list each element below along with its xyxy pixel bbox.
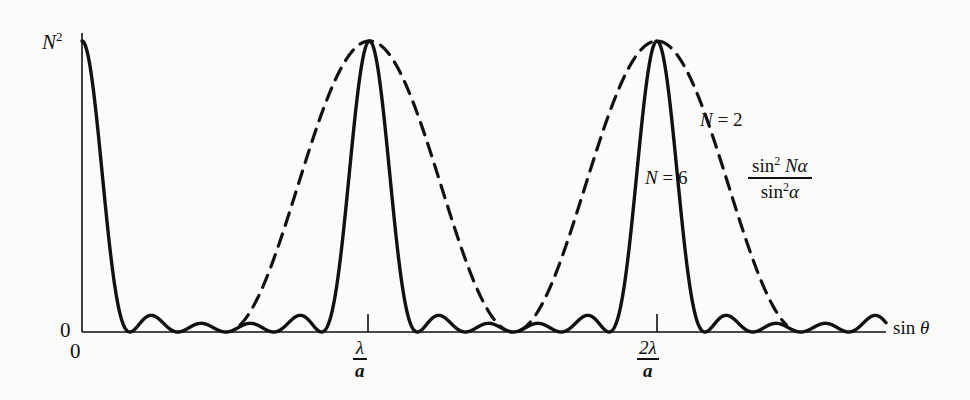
x-tick-label-2lambda-over-a: 2λ a (636, 338, 660, 380)
fraction-numerator: 2λ (636, 338, 660, 358)
y-axis-max-label-text: N (42, 30, 56, 54)
formula-numerator-function: sin (752, 155, 774, 176)
fraction-lambda-over-a: λ a (352, 338, 368, 380)
y-axis-max-label-exponent: 2 (56, 29, 63, 44)
formula-denominator: sin2α (748, 179, 812, 201)
formula-numerator-exponent: 2 (774, 154, 780, 168)
curve-label-n-equals-6: N = 6 (645, 168, 687, 187)
curve-label-n-symbol: N (700, 109, 713, 130)
y-axis-max-label: N2 (42, 30, 63, 53)
formula-numerator: sin2 Nα (748, 155, 812, 177)
formula-numerator-argument: Nα (785, 155, 808, 176)
fraction-2lambda-over-a: 2λ a (636, 338, 660, 380)
formula-denominator-argument: α (789, 181, 799, 202)
fraction-denominator: a (636, 360, 660, 380)
formula-denominator-function: sin (761, 181, 783, 202)
curve-n-equals-2 (240, 41, 786, 332)
curve-label-n-value: = 2 (713, 109, 743, 130)
y-axis-zero-label: 0 (60, 320, 71, 341)
x-axis-title-prefix: sin (893, 317, 920, 338)
curve-label-n-symbol: N (645, 167, 658, 188)
fraction-numerator: λ (352, 338, 368, 358)
x-axis-title: sin θ (893, 318, 929, 337)
x-axis-title-symbol: θ (920, 317, 929, 338)
curve-label-n-value: = 6 (658, 167, 688, 188)
x-tick-label-lambda-over-a: λ a (352, 338, 368, 380)
intensity-formula: sin2 Nα sin2α (748, 155, 812, 201)
interference-intensity-figure: N2 0 0 λ a 2λ a sin θ N = 2 N = 6 sin2 N… (0, 0, 970, 400)
fraction-denominator: a (352, 360, 368, 380)
plot-canvas (0, 0, 970, 400)
x-axis-origin-label: 0 (70, 341, 81, 362)
curve-label-n-equals-2: N = 2 (700, 110, 742, 129)
